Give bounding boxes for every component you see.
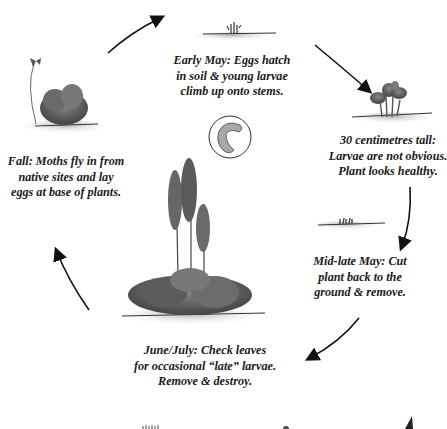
bottom-cropped-artwork bbox=[143, 416, 413, 429]
cut-stubble-illustration bbox=[310, 218, 385, 231]
moth-icon bbox=[30, 58, 41, 67]
flowering-plant-illustration bbox=[120, 158, 265, 328]
moth-plant-illustration bbox=[23, 58, 107, 136]
caption-fall: Fall: Moths fly in from native sites and… bbox=[2, 154, 130, 201]
arrow-30cm-to-mid-late bbox=[402, 187, 410, 246]
arrow-june-to-fall bbox=[57, 252, 89, 310]
caption-mid-late-may: Mid-late May: Cut plant back to the grou… bbox=[300, 254, 420, 301]
sprouting-shoots-illustration bbox=[192, 22, 276, 42]
arrow-fall-to-early-may bbox=[108, 18, 160, 53]
arrow-early-may-to-30cm bbox=[315, 45, 368, 90]
larva-inset-illustration bbox=[209, 116, 251, 158]
caption-early-may: Early May: Eggs hatch in soil & young la… bbox=[166, 53, 298, 100]
caption-june-july: June/July: Check leaves for occasional “… bbox=[130, 343, 280, 390]
arrow-mid-late-to-june bbox=[310, 318, 359, 358]
leafy-plant-illustration bbox=[352, 81, 432, 126]
caption-30cm-tall: 30 centimetres tall: Larvae are not obvi… bbox=[328, 133, 447, 180]
